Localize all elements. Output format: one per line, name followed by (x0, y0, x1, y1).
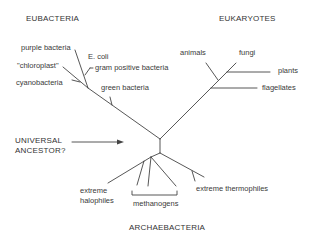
universal-ancestor-line2: ANCESTOR? (15, 146, 66, 156)
flagellates-label: flagellates (262, 84, 296, 92)
halophiles-line1: extreme (80, 186, 114, 196)
methanogens-bracket (132, 191, 177, 195)
animals-label: animals (180, 49, 206, 57)
chloroplast-label: "chloroplast" (17, 62, 59, 70)
methanogen-branch-3 (151, 157, 176, 186)
ecoli-label: E. coli (88, 53, 108, 61)
ecoli-gram-branch (85, 68, 90, 75)
fungi-label: fungi (239, 49, 255, 57)
phylogenetic-tree-diagram: EUBACTERIA EUKARYOTES ARCHAEBACTERIA pur… (0, 0, 313, 236)
ancestor-arrow-head (117, 140, 124, 145)
methanogens-label: methanogens (133, 200, 178, 208)
animals-branch (206, 63, 218, 80)
eukaryote-trunk (160, 63, 236, 139)
cyanobacteria-label: cyanobacteria (16, 79, 63, 87)
extreme-halophiles-label: extreme halophiles (80, 186, 114, 206)
archaebacteria-heading: ARCHAEBACTERIA (129, 224, 205, 232)
thermophiles-sub-branch (192, 171, 195, 181)
green-bacteria-label: green bacteria (101, 84, 149, 92)
universal-ancestor-label: UNIVERSAL ANCESTOR? (15, 136, 66, 156)
halophiles-branch (108, 157, 151, 183)
methanogen-branch-2 (148, 157, 151, 186)
extreme-thermophiles-label: extreme thermophiles (196, 185, 268, 193)
archae-sub-stem (151, 153, 160, 157)
purple-bacteria-label: purple bacteria (21, 44, 71, 52)
halophiles-line2: halophiles (80, 196, 114, 206)
thermophiles-branch (160, 153, 204, 177)
eubacteria-heading: EUBACTERIA (26, 15, 79, 23)
universal-ancestor-line1: UNIVERSAL (15, 136, 66, 146)
plants-label: plants (278, 67, 298, 75)
eubacteria-trunk (88, 88, 160, 139)
gram-positive-label: gram positive bacteria (95, 64, 168, 72)
eukaryotes-heading: EUKARYOTES (219, 15, 276, 23)
